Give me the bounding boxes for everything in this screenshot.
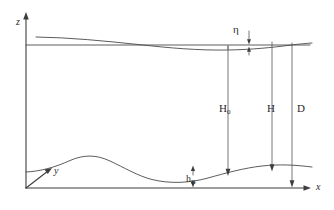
H0-label-main: H — [219, 102, 227, 114]
D-label: D — [297, 103, 305, 114]
eta-label: η — [233, 24, 239, 35]
D-dimension-arrow — [290, 43, 295, 188]
y-axis-label: y — [54, 166, 58, 176]
hB-label-sub: B — [191, 178, 196, 186]
H-label-main: H — [267, 102, 275, 114]
H0-label: H0 — [219, 103, 230, 114]
hB-label: hB — [186, 174, 196, 184]
H0-label-sub: 0 — [227, 108, 231, 116]
H-label: H — [267, 103, 275, 114]
x-axis-label: x — [316, 182, 320, 192]
D-label-main: D — [297, 102, 305, 114]
eta-dimension-arrows — [247, 31, 251, 55]
wave-schematic-diagram: z x y η H0 H D hB — [0, 0, 334, 210]
z-axis — [23, 12, 29, 188]
z-axis-label: z — [16, 17, 20, 27]
x-axis — [26, 185, 311, 191]
free-surface-wave — [36, 37, 312, 50]
seabed-profile — [26, 156, 312, 182]
diagram-canvas — [0, 0, 334, 210]
